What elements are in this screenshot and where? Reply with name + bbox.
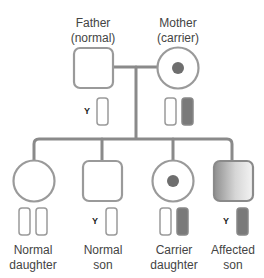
carrier-dot	[172, 62, 184, 74]
affected-son-label: Affected son	[193, 243, 264, 273]
mother-x-chromosome-normal	[165, 98, 176, 125]
normal-son-label-line2: son	[63, 258, 143, 273]
carrier-dot	[167, 175, 179, 187]
affected-son-label-line1: Affected	[193, 243, 264, 258]
sibship-line	[34, 139, 232, 160]
mother-label: Mother (carrier)	[138, 16, 218, 46]
father-square	[74, 48, 113, 88]
father-x-chromosome	[97, 98, 108, 125]
carrier-daughter-x-affected	[177, 208, 188, 235]
affected-son-label-line2: son	[193, 258, 264, 273]
normal-son-label: Normal son	[63, 243, 143, 273]
normal-son-label-line1: Normal	[63, 243, 143, 258]
mother-x-chromosome-affected	[182, 98, 193, 125]
normal-daughter-x-2	[36, 208, 47, 235]
father-label-line1: Father	[53, 16, 133, 31]
affected-son-square	[214, 161, 253, 201]
pedigree-lines	[34, 67, 232, 160]
father-label: Father (normal)	[53, 16, 133, 46]
affected-son-y-chromosome-label: Y	[223, 216, 229, 226]
affected-son-x-affected	[237, 208, 248, 235]
normal-daughter-x-1	[19, 208, 30, 235]
father-label-line2: (normal)	[53, 31, 133, 46]
father-y-chromosome-label: Y	[84, 106, 90, 116]
normal-son-y-chromosome-label: Y	[92, 216, 98, 226]
normal-son-x	[106, 208, 117, 235]
mother-label-line1: Mother	[138, 16, 218, 31]
mother-label-line2: (carrier)	[138, 31, 218, 46]
normal-son-square	[83, 161, 122, 201]
carrier-daughter-x-normal	[160, 208, 171, 235]
normal-daughter-circle	[14, 161, 55, 202]
